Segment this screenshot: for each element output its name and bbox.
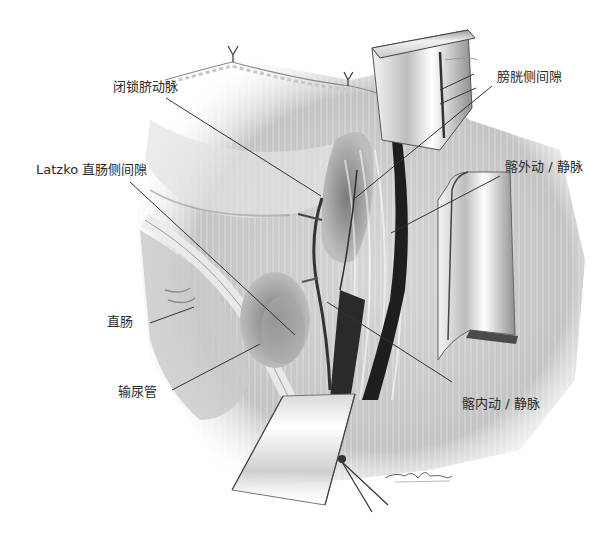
- label-ureter: 输尿管: [118, 385, 157, 398]
- anatomical-illustration: 闭锁脐动脉 膀胱侧间隙 髂外动 / 静脉 Latzko 直肠侧间隙 直肠 输尿管…: [0, 0, 602, 548]
- right-retractor: [438, 172, 518, 360]
- label-rectum: 直肠: [107, 315, 133, 328]
- label-obliterated-umbilical-artery: 闭锁脐动脉: [113, 80, 178, 93]
- label-latzko-pararectal-space: Latzko 直肠侧间隙: [36, 163, 147, 176]
- label-internal-iliac-vessels: 髂内动 / 静脉: [462, 397, 540, 410]
- label-external-iliac-vessels: 髂外动 / 静脉: [505, 160, 583, 173]
- label-paravesical-space: 膀胱侧间隙: [497, 70, 562, 83]
